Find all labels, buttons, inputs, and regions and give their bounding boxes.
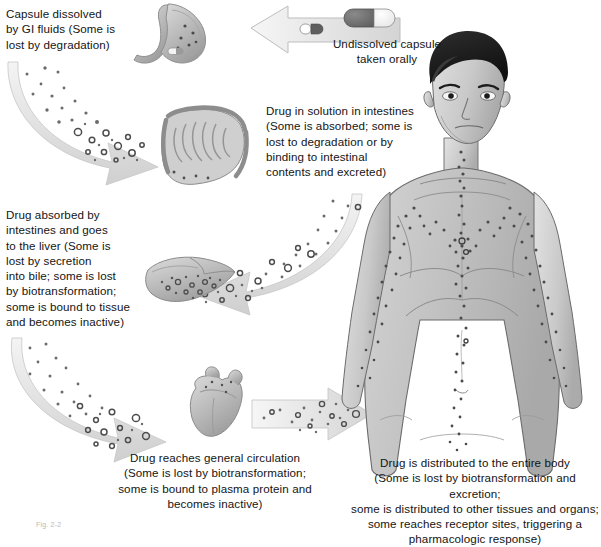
heart-illustration (190, 367, 242, 436)
drug-particles (26, 66, 100, 124)
figure-caption: Fig. 2-2 (36, 521, 61, 528)
human-body-illustration (342, 31, 582, 476)
intestines-illustration (162, 107, 247, 184)
arrow-stomach-to-intestines (8, 62, 158, 185)
label-entire-body: Drug is distributed to the entire body (… (350, 455, 600, 547)
label-undissolved-capsule: Undissolved capsule taken orally (312, 36, 462, 67)
label-general-circulation: Drug reaches general circulation (Some i… (80, 450, 350, 511)
label-drug-in-solution: Drug in solution in intestines (Some is … (266, 103, 426, 179)
undissolved-capsule-icon (344, 9, 395, 27)
arrow-liver-to-heart (11, 338, 166, 462)
arrow-intestines-to-liver (198, 194, 362, 315)
label-drug-absorbed-liver: Drug absorbed by intestines and goes to … (6, 207, 156, 329)
capsule-in-arrow (300, 24, 323, 34)
label-capsule-dissolved: Capsule dissolved by GI fluids (Some is … (6, 6, 176, 52)
